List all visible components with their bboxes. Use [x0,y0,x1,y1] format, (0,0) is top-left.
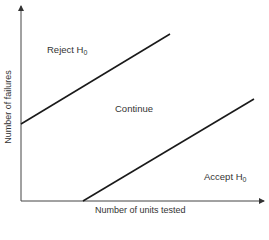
continue-region-label: Continue [115,104,153,114]
reject-region-label: Reject H0 [47,45,87,56]
x-axis-label: Number of units tested [95,205,186,215]
accept-region-label: Accept H0 [204,172,246,183]
accept-text: Accept H [204,171,243,182]
reject-subscript: 0 [83,49,87,56]
reject-text: Reject H [47,44,83,55]
accept-subscript: 0 [243,176,247,183]
accept-boundary-line [83,99,254,201]
y-axis-label: Number of failures [3,70,13,144]
